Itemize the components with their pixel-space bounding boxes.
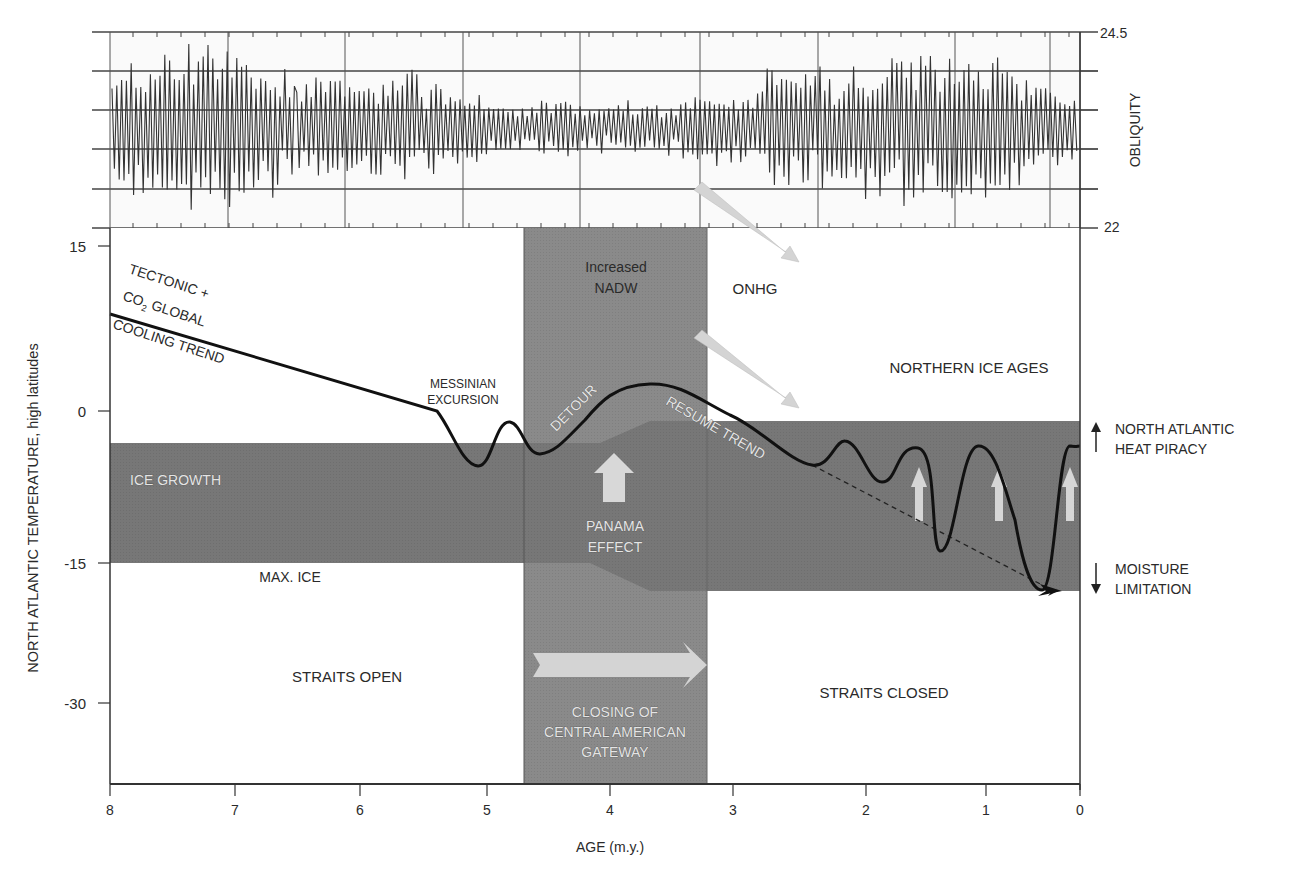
x-tick-8: 8 bbox=[106, 802, 114, 818]
arrow-up-icon bbox=[1091, 422, 1101, 432]
x-tick-7: 7 bbox=[231, 802, 239, 818]
label-limitation: LIMITATION bbox=[1115, 581, 1191, 597]
label-increased: Increased bbox=[585, 259, 646, 275]
label-ice-growth: ICE GROWTH bbox=[130, 472, 221, 488]
label-straits-open: STRAITS OPEN bbox=[292, 668, 402, 685]
moisture-limitation-legend: MOISTURE LIMITATION bbox=[1091, 561, 1191, 597]
label-central-american: CENTRAL AMERICAN bbox=[544, 724, 686, 740]
label-messinian: MESSINIAN bbox=[430, 377, 496, 391]
heat-piracy-legend: NORTH ATLANTIC HEAT PIRACY bbox=[1091, 421, 1234, 457]
x-tick-5: 5 bbox=[483, 802, 491, 818]
label-straits-closed: STRAITS CLOSED bbox=[819, 684, 948, 701]
label-nadw: NADW bbox=[595, 280, 639, 296]
obliquity-tick-bottom: 22 bbox=[1104, 219, 1120, 235]
obliquity-tick-top: 24.5 bbox=[1100, 25, 1127, 41]
climate-chart: 24.5 22 OBLIQUITY bbox=[0, 0, 1293, 884]
obliquity-panel: 24.5 22 OBLIQUITY bbox=[92, 25, 1143, 235]
label-effect: EFFECT bbox=[588, 539, 643, 555]
x-tick-4: 4 bbox=[606, 802, 614, 818]
label-closing-of: CLOSING OF bbox=[572, 704, 658, 720]
y-tick-neg15: -15 bbox=[64, 555, 86, 572]
x-tick-0: 0 bbox=[1076, 802, 1084, 818]
obliquity-axis-label: OBLIQUITY bbox=[1127, 92, 1143, 167]
x-axis-label: AGE (m.y.) bbox=[576, 839, 644, 855]
x-tick-6: 6 bbox=[356, 802, 364, 818]
x-tick-1: 1 bbox=[982, 802, 990, 818]
y-axis-label: NORTH ATLANTIC TEMPERATURE, high latitud… bbox=[25, 343, 41, 672]
label-gateway: GATEWAY bbox=[581, 744, 649, 760]
y-tick-0: 0 bbox=[78, 403, 86, 420]
y-tick-15: 15 bbox=[69, 238, 86, 255]
label-moisture: MOISTURE bbox=[1115, 561, 1189, 577]
x-tick-3: 3 bbox=[729, 802, 737, 818]
y-tick-neg30: -30 bbox=[64, 695, 86, 712]
label-heat-piracy: HEAT PIRACY bbox=[1115, 441, 1208, 457]
arrow-down-icon bbox=[1091, 584, 1101, 594]
x-tick-2: 2 bbox=[862, 802, 870, 818]
label-onhg: ONHG bbox=[733, 280, 778, 297]
label-north-atlantic: NORTH ATLANTIC bbox=[1115, 421, 1234, 437]
label-max-ice: MAX. ICE bbox=[259, 569, 320, 585]
label-panama: PANAMA bbox=[586, 518, 645, 534]
label-northern-ice-ages: NORTHERN ICE AGES bbox=[890, 359, 1049, 376]
label-excursion: EXCURSION bbox=[427, 393, 498, 407]
